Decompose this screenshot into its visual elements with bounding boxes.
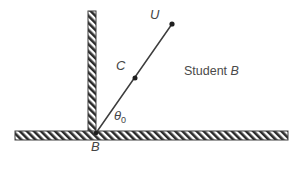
theta-subscript: 0 — [121, 115, 126, 125]
figure-canvas: U C B θ0 Student B — [0, 0, 301, 183]
student-word: Student — [184, 64, 231, 78]
label-u: U — [150, 8, 159, 21]
point-b-marker — [94, 131, 99, 136]
label-student-b: Student B — [184, 65, 239, 78]
student-letter: B — [231, 64, 239, 78]
ground-shape — [15, 131, 288, 140]
physics-diagram — [0, 0, 301, 183]
point-u-marker — [169, 21, 174, 26]
point-c-marker — [133, 76, 138, 81]
label-c: C — [116, 59, 125, 72]
wall-shape — [88, 11, 96, 133]
label-b: B — [91, 140, 100, 153]
label-angle-theta-zero: θ0 — [114, 109, 126, 125]
theta-symbol: θ — [114, 108, 121, 123]
